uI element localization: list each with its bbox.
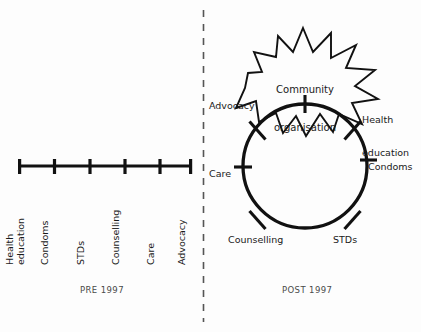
scale-label-condoms: Condoms xyxy=(39,220,50,265)
circle-label-stds-text: STDs xyxy=(333,234,357,245)
scale-label-counselling: Counselling xyxy=(110,210,121,265)
scale-label-counselling-text: Counselling xyxy=(110,210,121,265)
caption-pre-1997-text: PRE 1997 xyxy=(80,285,124,295)
circle-label-health-education-line1: Health xyxy=(362,114,409,125)
circle-label-counselling: Counselling xyxy=(228,234,283,245)
caption-post-1997-text: POST 1997 xyxy=(282,285,332,295)
figure-canvas: Health education Condoms STDs Counsellin… xyxy=(0,0,421,332)
pre-1997-linear-scale xyxy=(19,159,192,174)
circle-label-care-text: Care xyxy=(209,168,231,179)
circle-label-health-education-line2: education xyxy=(362,147,409,158)
community-organisation-label: Community organisation xyxy=(252,59,358,159)
circle-label-advocacy: Advocacy xyxy=(209,100,255,111)
circle-label-care: Care xyxy=(209,168,231,179)
circle-label-stds: STDs xyxy=(333,234,357,245)
diagram-vector-layer xyxy=(0,0,421,332)
scale-label-care: Care xyxy=(145,243,156,265)
caption-post-1997: POST 1997 xyxy=(282,285,332,295)
scale-label-health-education: Health xyxy=(4,234,15,265)
scale-label-health-education-line2: education xyxy=(15,218,26,265)
scale-label-care-text: Care xyxy=(145,243,156,265)
circle-label-counselling-text: Counselling xyxy=(228,234,283,245)
scale-label-advocacy: Advocacy xyxy=(176,219,187,265)
circle-label-advocacy-text: Advocacy xyxy=(209,100,255,111)
scale-label-health-education-2: education xyxy=(15,218,26,265)
caption-pre-1997: PRE 1997 xyxy=(80,285,124,295)
scale-label-stds-text: STDs xyxy=(75,241,86,265)
scale-label-stds: STDs xyxy=(75,241,86,265)
scale-label-condoms-text: Condoms xyxy=(39,220,50,265)
scale-label-advocacy-text: Advocacy xyxy=(176,219,187,265)
community-organisation-label-line2: organisation xyxy=(252,122,358,135)
community-organisation-label-line1: Community xyxy=(252,84,358,97)
scale-label-health-education-line1: Health xyxy=(4,234,15,265)
circle-label-condoms-text: Condoms xyxy=(368,161,413,172)
circle-label-condoms: Condoms xyxy=(368,161,413,172)
